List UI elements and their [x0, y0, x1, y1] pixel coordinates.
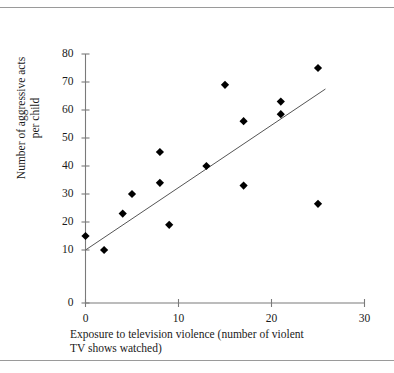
- data-point-3[interactable]: [128, 190, 136, 198]
- data-point-8[interactable]: [221, 81, 229, 89]
- x-tick-label-10: 10: [166, 313, 192, 325]
- x-tick-label-0: 0: [73, 313, 99, 325]
- y-axis-title: Number of aggressive acts per child: [14, 28, 42, 208]
- trendline: [86, 89, 326, 250]
- y-tick-label-40: 40: [52, 160, 74, 172]
- data-points-group: [81, 64, 322, 254]
- data-point-13[interactable]: [314, 200, 322, 208]
- y-tick-label-70: 70: [52, 76, 74, 88]
- x-axis-title-line-2: TV shows watched): [70, 341, 370, 355]
- data-point-10[interactable]: [240, 117, 248, 125]
- data-point-0[interactable]: [81, 232, 89, 240]
- x-axis-title: Exposure to television violence (number …: [70, 327, 370, 355]
- trendline-segment: [86, 89, 326, 250]
- x-tick-label-20: 20: [259, 313, 285, 325]
- y-tick-label-80: 80: [52, 48, 74, 60]
- data-point-12[interactable]: [277, 98, 285, 106]
- data-point-4[interactable]: [156, 179, 164, 187]
- data-point-1[interactable]: [100, 246, 108, 254]
- data-point-5[interactable]: [156, 148, 164, 156]
- data-point-9[interactable]: [240, 182, 248, 190]
- y-tick-label-50: 50: [52, 132, 74, 144]
- x-axis-title-line-1: Exposure to television violence (number …: [70, 327, 370, 341]
- y-axis-title-line-1: Number of aggressive acts: [14, 28, 28, 208]
- y-axis-title-line-2: per child: [28, 28, 42, 208]
- data-point-7[interactable]: [202, 162, 210, 170]
- x-tick-label-30: 30: [352, 313, 378, 325]
- data-point-6[interactable]: [165, 221, 173, 229]
- data-point-14[interactable]: [314, 64, 322, 72]
- y-tick-label-0: 0: [52, 297, 74, 309]
- data-point-2[interactable]: [119, 210, 127, 218]
- y-tick-label-10: 10: [52, 244, 74, 256]
- y-tick-label-60: 60: [52, 104, 74, 116]
- figure-container: 01020304050607080 0102030 Exposure to te…: [0, 0, 394, 373]
- y-tick-label-30: 30: [52, 188, 74, 200]
- y-tick-label-20: 20: [52, 216, 74, 228]
- axes-group: [82, 54, 365, 307]
